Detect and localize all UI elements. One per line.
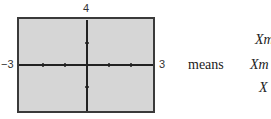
xscl-line: X bbox=[259, 80, 268, 96]
xmin-label: −3 bbox=[1, 58, 14, 70]
xmax-label: 3 bbox=[159, 58, 165, 70]
means-text: means bbox=[188, 57, 224, 73]
coordinate-axes bbox=[17, 17, 155, 113]
xmax-line: Xm bbox=[250, 57, 269, 73]
ymax-label: 4 bbox=[83, 2, 89, 14]
xmin-line: Xm bbox=[255, 32, 271, 48]
